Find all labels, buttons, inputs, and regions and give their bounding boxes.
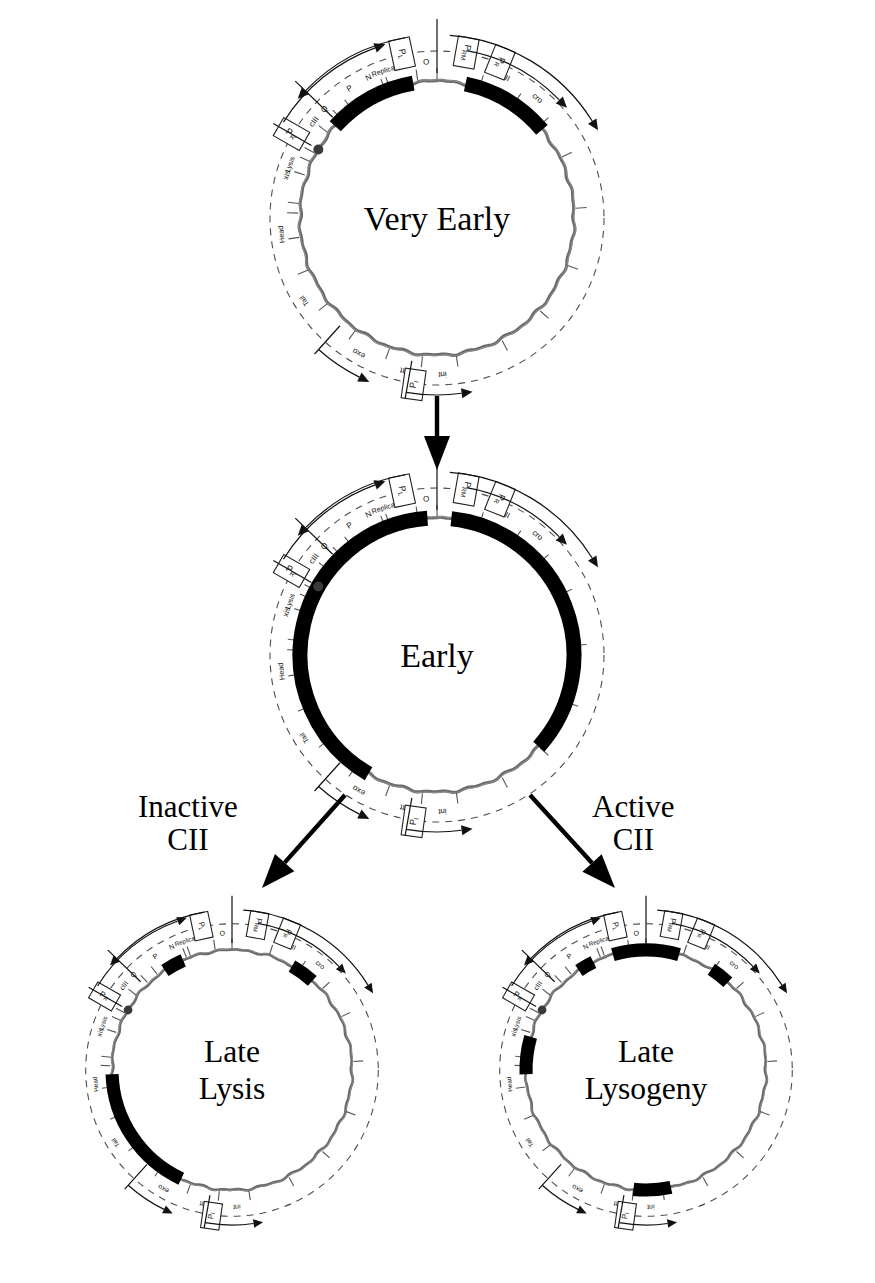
gene-label-ciii: cIII bbox=[532, 980, 543, 992]
active-arc-cro-residual bbox=[711, 969, 727, 982]
promoters: PLPRPRMPR'PI bbox=[89, 911, 301, 1230]
gene-boundary-ticks bbox=[515, 939, 777, 1201]
active-arc-PR-early-extended bbox=[451, 519, 574, 747]
cos-site-marker bbox=[313, 582, 323, 592]
gene-label-o: O bbox=[633, 929, 639, 936]
transcript-arrowhead-3 bbox=[373, 43, 385, 52]
transcript-arrowhead-1 bbox=[588, 555, 598, 567]
genome-panel-late_lysis: intattexoTailHeadLysiscosSRQPReplication… bbox=[0, 830, 472, 1283]
active-arc-N-residual bbox=[579, 962, 593, 970]
active-transcription-arcs bbox=[335, 83, 542, 130]
active-cii-label: Active CII bbox=[592, 790, 675, 857]
gene-label-p: P bbox=[151, 952, 159, 961]
inactive-cii-label: Inactive CII bbox=[138, 790, 238, 857]
figure-canvas: intattexoTailHeadLysiscosSRQPReplication… bbox=[0, 0, 875, 1283]
gene-label-int: int bbox=[647, 1204, 655, 1211]
active-arc-int-from-PI bbox=[633, 1187, 670, 1190]
gene-labels: intattexoTailHeadLysiscosSRQPReplication… bbox=[505, 929, 740, 1211]
transcript-arrowhead-4 bbox=[253, 1219, 263, 1228]
gene-label-tail: Tail bbox=[297, 294, 311, 308]
gene-boundary-ticks bbox=[101, 939, 363, 1201]
active-arc-cI-repressor bbox=[613, 950, 679, 955]
gene-label-exo: exo bbox=[350, 783, 366, 798]
panel-title-late_lysis: Lysis bbox=[199, 1071, 266, 1106]
gene-label-head: Head bbox=[505, 1076, 514, 1092]
gene-label-cro: cro bbox=[728, 959, 740, 971]
active-transcription-arcs bbox=[526, 950, 728, 1190]
panel-title-very_early: Very Early bbox=[364, 200, 510, 237]
promoter-pi: PI bbox=[201, 1201, 223, 1230]
active-arc-late-lytic-operon bbox=[112, 1074, 181, 1179]
gene-label-int: int bbox=[437, 370, 447, 379]
gene-label-cro: cro bbox=[530, 91, 545, 105]
gene-label-exo: exo bbox=[157, 1183, 170, 1195]
active-arc-Q-residual bbox=[526, 1037, 531, 1074]
transcript-arrowhead-3 bbox=[373, 480, 385, 489]
active-arc-N-residual bbox=[165, 960, 183, 970]
gene-label-o: O bbox=[219, 929, 225, 936]
promoter-pi: PI bbox=[615, 1201, 637, 1230]
gene-label-head: Head bbox=[91, 1076, 100, 1092]
panel-title-late_lysogeny: Late bbox=[618, 1034, 674, 1069]
gene-label-p: P bbox=[345, 520, 354, 530]
promoters: PLPRPRMPR'PI bbox=[503, 911, 715, 1230]
gene-label-ciii: cIII bbox=[307, 115, 321, 129]
gene-label-int: int bbox=[233, 1204, 241, 1211]
transcript-arrowhead-3 bbox=[590, 917, 601, 925]
cos-site-marker bbox=[538, 1006, 547, 1015]
active-arc-PR-very-early bbox=[465, 84, 541, 130]
transcript-arrowhead-4 bbox=[667, 1219, 677, 1228]
gene-label-cro: cro bbox=[530, 528, 545, 542]
panel-title-early: Early bbox=[400, 637, 474, 674]
active-arc-cro-residual bbox=[292, 966, 312, 981]
gene-label-tail: Tail bbox=[524, 1137, 535, 1149]
transcript-arrowhead-1 bbox=[588, 118, 598, 130]
cos-site-marker bbox=[124, 1006, 133, 1015]
gene-label-cro: cro bbox=[314, 959, 326, 971]
panel-title-late_lysis: Late bbox=[204, 1034, 260, 1069]
gene-label-o: O bbox=[423, 494, 430, 503]
transcript-arrowhead-1 bbox=[778, 983, 787, 993]
gene-label-head: Head bbox=[276, 662, 287, 680]
gene-label-exo: exo bbox=[350, 346, 366, 361]
gene-label-o: O bbox=[423, 57, 430, 66]
cos-site-marker bbox=[313, 145, 323, 155]
transcript-arrowhead-4 bbox=[461, 388, 473, 398]
gene-label-p: P bbox=[345, 83, 354, 93]
panel-title-late_lysogeny: Lysogeny bbox=[585, 1071, 708, 1106]
gene-label-ciii: cIII bbox=[118, 980, 129, 992]
gene-label-tail: Tail bbox=[297, 731, 311, 745]
genome-panel-late_lysogeny: intattexoTailHeadLysiscosSRQPReplication… bbox=[406, 830, 875, 1283]
active-transcription-arcs bbox=[112, 960, 312, 1178]
gene-label-head: Head bbox=[276, 225, 287, 243]
gene-label-int: int bbox=[437, 807, 447, 816]
transcript-arrowhead-3 bbox=[176, 917, 187, 925]
gene-label-ciii: cIII bbox=[307, 552, 321, 566]
transcript-arrowhead-1 bbox=[364, 983, 373, 993]
promoter-pi: PI bbox=[401, 368, 426, 401]
gene-label-p: P bbox=[565, 952, 573, 961]
gene-label-tail: Tail bbox=[110, 1137, 121, 1149]
gene-label-exo: exo bbox=[571, 1183, 584, 1195]
